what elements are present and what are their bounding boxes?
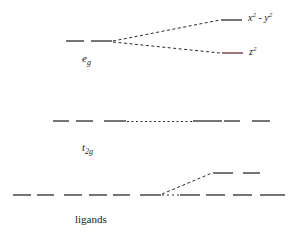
energy-diagram-canvas — [0, 0, 298, 236]
z2-label: z2 — [249, 46, 256, 57]
t2g-label: t2g — [82, 142, 93, 156]
x2y2-label-mid: - y — [256, 12, 269, 23]
x2y2-label: x2 - y2 — [248, 12, 272, 23]
ligand-split-connector — [162, 173, 212, 194]
x2y2-label-exp2: 2 — [269, 11, 273, 19]
ligands-label: ligands — [75, 214, 107, 225]
eg-label-sub: g — [87, 58, 91, 67]
eg-to-x2y2-connector — [113, 20, 220, 41]
eg-to-z2-connector — [113, 42, 220, 53]
t2g-label-sub: 2g — [85, 147, 93, 156]
eg-label: eg — [82, 53, 91, 67]
z2-label-exp: 2 — [253, 45, 257, 53]
